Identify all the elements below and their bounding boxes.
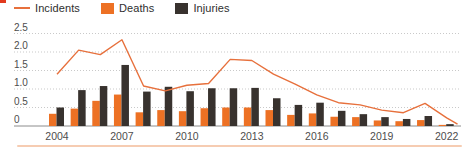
- y-tick-label: 2.0: [14, 40, 28, 51]
- x-tick-label: 2016: [305, 130, 329, 142]
- chart-plot: 00.51.01.52.02.5200420072010201320162019…: [0, 0, 465, 151]
- injuries-bar-2005: [78, 90, 86, 126]
- x-tick-label: 2004: [45, 130, 69, 142]
- deaths-bar-2005: [71, 109, 79, 126]
- deaths-bar-2014: [266, 110, 274, 126]
- bottom-divider: [17, 145, 462, 147]
- deaths-bar-2016: [309, 113, 317, 126]
- injuries-bar-2007: [121, 65, 129, 126]
- deaths-bar-2011: [201, 108, 209, 126]
- injuries-bar-2004: [57, 108, 65, 127]
- y-tick-label: 0.5: [14, 96, 28, 107]
- x-tick-label: 2010: [175, 130, 199, 142]
- injuries-bar-2022: [446, 124, 454, 126]
- x-tick-label: 2013: [240, 130, 264, 142]
- injuries-bar-2015: [295, 105, 303, 126]
- deaths-bar-2022: [439, 125, 447, 126]
- deaths-bar-2009: [157, 110, 165, 126]
- deaths-bar-2008: [136, 112, 144, 126]
- deaths-bar-2013: [244, 108, 252, 127]
- injuries-bar-2011: [208, 88, 216, 126]
- chart-panel: Incidents Deaths Injuries 00.51.01.52.02…: [0, 0, 465, 151]
- injuries-bar-2006: [100, 86, 108, 126]
- deaths-bar-2015: [287, 115, 295, 126]
- deaths-bar-2010: [179, 111, 187, 126]
- injuries-bar-2010: [186, 91, 194, 126]
- injuries-bar-2014: [273, 98, 281, 126]
- injuries-bar-2017: [338, 111, 346, 126]
- injuries-bar-2008: [143, 92, 151, 126]
- injuries-bar-2018: [360, 114, 368, 126]
- y-tick-label: 1.5: [14, 59, 28, 70]
- deaths-bar-2021: [417, 120, 425, 126]
- x-tick-label: 2007: [110, 130, 134, 142]
- y-tick-label: 0: [14, 114, 20, 125]
- deaths-bar-2019: [374, 120, 382, 126]
- deaths-bar-2004: [49, 114, 57, 126]
- deaths-bar-2012: [222, 108, 230, 127]
- deaths-bar-2018: [352, 117, 360, 126]
- injuries-bar-2012: [230, 88, 238, 126]
- x-tick-label: 2022: [435, 130, 459, 142]
- deaths-bar-2020: [395, 121, 403, 126]
- deaths-bar-2017: [330, 117, 338, 126]
- y-tick-label: 2.5: [14, 22, 28, 33]
- injuries-bar-2020: [403, 119, 411, 126]
- injuries-bar-2009: [165, 87, 173, 126]
- injuries-bar-2019: [381, 117, 389, 126]
- y-tick-label: 1.0: [14, 77, 28, 88]
- x-tick-label: 2019: [370, 130, 394, 142]
- injuries-bar-2013: [251, 88, 259, 126]
- deaths-bar-2006: [92, 101, 100, 126]
- injuries-bar-2016: [316, 103, 324, 126]
- deaths-bar-2007: [114, 95, 122, 126]
- injuries-bar-2021: [425, 116, 433, 126]
